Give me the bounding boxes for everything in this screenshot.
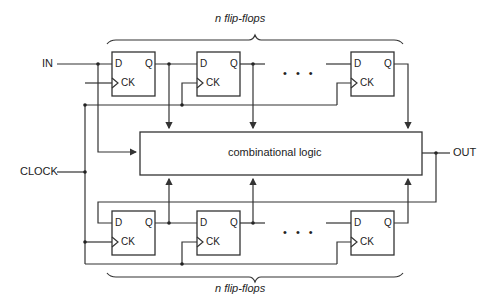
bottom-brace: [107, 273, 403, 282]
top-ff2-ck: CK: [206, 77, 220, 88]
out-label: OUT: [453, 146, 476, 158]
bottom-ffn-q: Q: [384, 217, 392, 228]
bottom-ff2-ck: CK: [206, 236, 220, 247]
bottom-brace-label: n flip-flops: [215, 282, 265, 294]
bottom-ff2-q: Q: [230, 217, 238, 228]
top-brace: [107, 35, 403, 44]
sequential-circuit-diagram: n flip-flops n flip-flops IN CLOCK OUT c…: [0, 0, 490, 305]
top-ffn-q: Q: [384, 58, 392, 69]
in-label: IN: [42, 57, 53, 69]
clock-label: CLOCK: [20, 165, 58, 177]
combinational-logic-label: combinational logic: [228, 146, 322, 158]
bottom-ff1-ck: CK: [121, 236, 135, 247]
bottom-ffn-d: D: [354, 217, 361, 228]
bottom-ff1-d: D: [115, 217, 122, 228]
top-ff1-q: Q: [145, 58, 153, 69]
bottom-ffn-ck: CK: [360, 236, 374, 247]
top-ff1-ck: CK: [121, 77, 135, 88]
top-ff2-d: D: [200, 58, 207, 69]
bottom-ff1-q: Q: [145, 217, 153, 228]
top-ellipsis: • • •: [283, 67, 316, 79]
bottom-ff2-d: D: [200, 217, 207, 228]
bottom-ellipsis: • • •: [283, 226, 316, 238]
top-ffn-ck: CK: [360, 77, 374, 88]
top-ff2-q: Q: [230, 58, 238, 69]
top-brace-label: n flip-flops: [215, 12, 265, 24]
top-ffn-d: D: [354, 58, 361, 69]
top-ff1-d: D: [115, 58, 122, 69]
